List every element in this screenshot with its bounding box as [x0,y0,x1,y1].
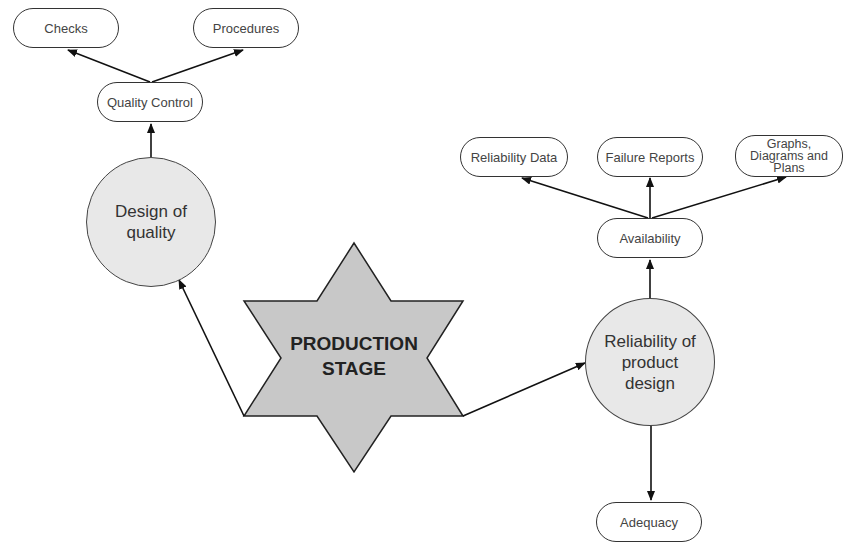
reliability-line3: design [604,373,696,394]
reliability-line2: product [604,352,696,373]
node-quality-control: Quality Control [97,82,203,122]
graphs-line3: Plans [750,162,828,174]
node-adequacy: Adequacy [596,502,702,542]
production-stage-line2: STAGE [254,356,454,381]
reliability-line1: Reliability of [604,331,696,352]
arrow-qc-to-procedures [152,50,243,82]
production-stage-label: PRODUCTION STAGE [254,331,454,381]
node-checks: Checks [13,8,119,48]
arrow-availability-to-graphs [652,177,786,218]
node-failure-reports-label: Failure Reports [606,151,695,164]
node-design-of-quality: Design of quality [86,157,216,287]
node-reliability-data: Reliability Data [460,137,568,177]
node-procedures: Procedures [193,8,299,48]
production-stage-line1: PRODUCTION [254,331,454,356]
node-failure-reports: Failure Reports [597,137,703,177]
arrow-star-to-reliability [463,363,585,416]
node-quality-control-label: Quality Control [107,96,193,109]
node-graphs-diagrams-plans: Graphs, Diagrams and Plans [735,135,843,177]
node-checks-label: Checks [44,22,87,35]
arrow-qc-to-checks [68,50,150,82]
design-of-quality-line1: Design of [115,201,187,222]
arrow-availability-to-reliability-data [522,178,648,218]
node-adequacy-label: Adequacy [620,516,678,529]
node-availability-label: Availability [619,232,680,245]
node-availability: Availability [597,218,703,258]
arrow-star-to-design-of-quality [179,280,244,416]
node-procedures-label: Procedures [213,22,279,35]
design-of-quality-line2: quality [115,222,187,243]
node-reliability-data-label: Reliability Data [471,151,558,164]
node-reliability-of-product-design: Reliability of product design [585,298,715,426]
